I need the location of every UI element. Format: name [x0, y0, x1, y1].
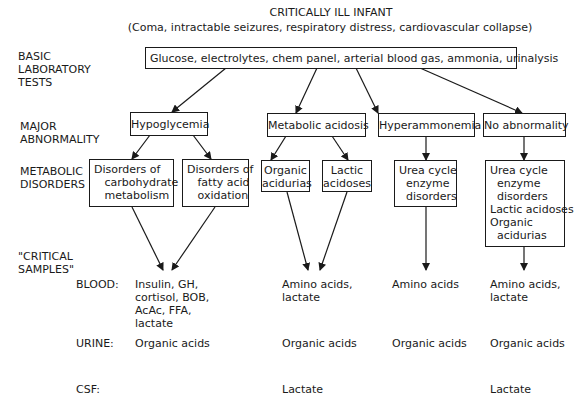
- basic-tests-box: Glucose, electrolytes, chem panel, arter…: [145, 47, 517, 69]
- urine-hypoglycemia: Organic acids: [135, 337, 210, 350]
- diagram-title: CRITICALLY ILL INFANT: [145, 6, 517, 19]
- blood-hyperammonemia: Amino acids: [392, 278, 459, 291]
- carbohydrate-disorders-box: Disorders of carbohydrate metabolism: [89, 159, 174, 207]
- no-abnormality-disorders-box: Urea cycle enzyme disorders Lactic acido…: [485, 160, 565, 247]
- metabolic-acidosis-box: Metabolic acidosis: [267, 113, 366, 137]
- row-label-major-abnormality: MAJOR ABNORMALITY: [20, 120, 99, 146]
- row-label-metabolic-disorders: METABOLIC DISORDERS: [20, 165, 85, 191]
- organic-acidurias-box: Organic acidurias: [261, 160, 310, 192]
- hypoglycemia-box: Hypoglycemia: [130, 112, 208, 136]
- diagram-subtitle: (Coma, intractable seizures, respiratory…: [120, 21, 540, 34]
- row-label-csf: CSF:: [76, 383, 100, 396]
- lactic-acidoses-box: Lactic acidoses: [322, 160, 372, 192]
- blood-no-abnormality: Amino acids, lactate: [490, 278, 561, 304]
- urine-no-abnormality: Organic acids: [490, 337, 565, 350]
- csf-metabolic-acidosis: Lactate: [282, 383, 323, 396]
- fatty-acid-disorders-box: Disorders of fatty acid oxidation: [182, 159, 249, 207]
- csf-no-abnormality: Lactate: [490, 383, 531, 396]
- no-abnormality-box: No abnormality: [483, 113, 566, 137]
- urine-metabolic-acidosis: Organic acids: [282, 337, 357, 350]
- row-label-basic-lab: BASIC LABORATORY TESTS: [18, 50, 91, 89]
- blood-metabolic-acidosis: Amino acids, lactate: [282, 278, 353, 304]
- row-label-blood: BLOOD:: [76, 278, 119, 291]
- blood-hypoglycemia: Insulin, GH, cortisol, BOB, AcAc, FFA, l…: [135, 278, 209, 330]
- row-label-critical-samples: "CRITICAL SAMPLES": [18, 250, 74, 276]
- urine-hyperammonemia: Organic acids: [392, 337, 467, 350]
- urea-cycle-disorders-box: Urea cycle enzyme disorders: [394, 160, 457, 207]
- hyperammonemia-box: Hyperammonemia: [378, 113, 475, 137]
- row-label-urine: URINE:: [76, 337, 114, 350]
